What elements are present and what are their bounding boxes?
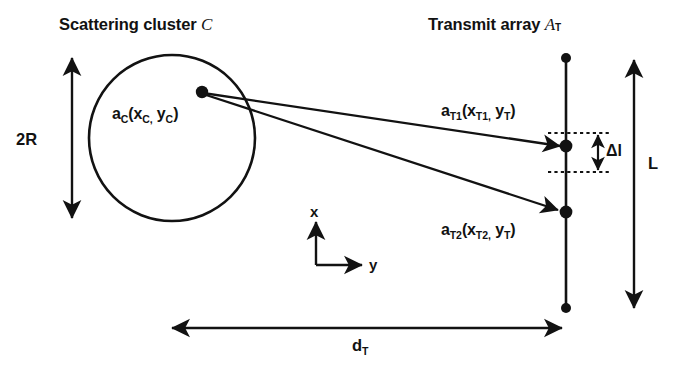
- cluster-title: Scattering cluster C: [59, 16, 212, 33]
- axis-x-label: x: [310, 204, 318, 219]
- array-length-label: L: [648, 155, 658, 172]
- array-title: Transmit array AT: [428, 16, 561, 33]
- cluster-symbol: C: [201, 15, 212, 34]
- element-2-label: aT2(xT2, yT): [441, 222, 516, 241]
- array-element-2-marker: [560, 206, 573, 219]
- range-distance-label: dT: [352, 337, 369, 357]
- array-element-1-marker: [560, 140, 573, 153]
- scatterer-label: aC(xC, yC): [112, 106, 178, 125]
- array-endpoint-top-marker: [561, 53, 571, 63]
- array-symbol: AT: [545, 15, 561, 34]
- array-endpoint-bottom-marker: [561, 303, 571, 313]
- array-title-text: Transmit array: [428, 15, 540, 33]
- scatterer-point-marker: [196, 86, 208, 98]
- diagram-vector-layer: [0, 0, 696, 373]
- scatterer-label-a: a: [112, 105, 121, 122]
- element-1-label: aT1(xT1, yT): [441, 103, 516, 122]
- figure-canvas: Scattering cluster C Transmit array AT a…: [0, 0, 696, 373]
- element-spacing-label: Δl: [606, 143, 622, 159]
- scattering-cluster-circle: [89, 55, 255, 221]
- cluster-diameter-label: 2R: [16, 131, 37, 148]
- cluster-title-text: Scattering cluster: [59, 15, 197, 33]
- axis-y-label: y: [369, 257, 377, 272]
